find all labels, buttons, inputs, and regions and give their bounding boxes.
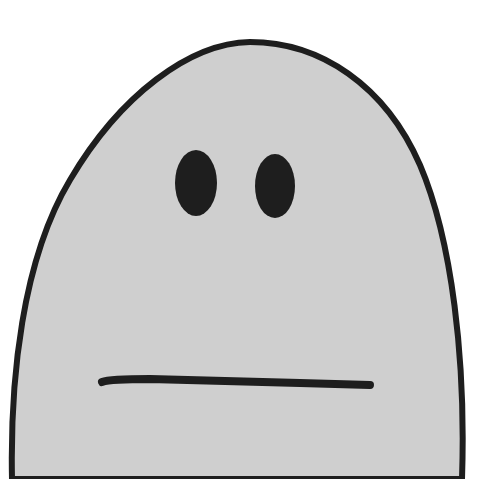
right-eye [255,154,295,218]
left-eye [175,150,217,216]
illustration-canvas [0,0,484,479]
blob-character [0,0,484,479]
body-outline [12,42,463,479]
